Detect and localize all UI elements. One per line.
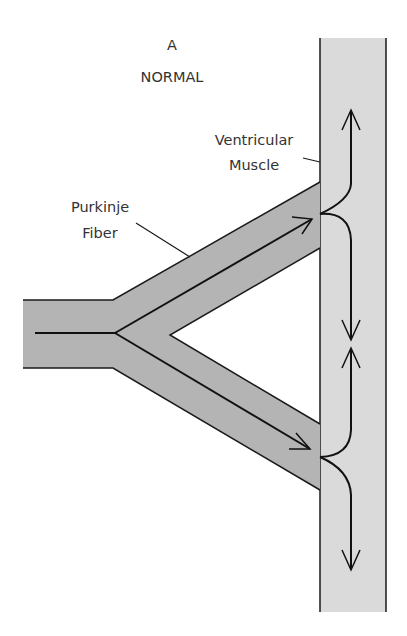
fiber-leader-line [136, 223, 190, 257]
muscle-leader-line [303, 158, 320, 162]
muscle-label-line1: Ventricular [215, 132, 294, 148]
panel-title: NORMAL [141, 69, 204, 85]
fiber-label-line1: Purkinje [71, 199, 129, 215]
conduction-diagram: A NORMAL Ventricular Muscle Purkinje Fib… [0, 0, 407, 636]
muscle-label-line2: Muscle [229, 157, 279, 173]
panel-letter: A [167, 37, 177, 53]
fiber-label-line2: Fiber [82, 225, 117, 241]
ventricular-muscle [320, 38, 386, 612]
